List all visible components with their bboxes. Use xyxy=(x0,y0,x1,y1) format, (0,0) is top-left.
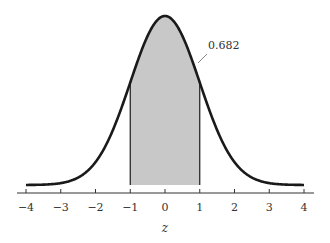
x-tick-label: 0 xyxy=(162,201,169,214)
chart-canvas: −4−3−2−101234 0.682 z xyxy=(0,0,330,243)
x-tick-label: −1 xyxy=(122,201,138,214)
annotation-leader-line xyxy=(198,54,207,63)
x-tick-label: 3 xyxy=(266,201,273,214)
x-tick-label: 1 xyxy=(196,201,203,214)
x-tick-label: 4 xyxy=(301,201,308,214)
normal-distribution-chart: −4−3−2−101234 0.682 z xyxy=(0,0,330,243)
x-tick-label: −2 xyxy=(87,201,103,214)
shaded-area xyxy=(130,16,200,185)
x-axis-title: z xyxy=(161,221,169,235)
x-tick-label: −3 xyxy=(53,201,69,214)
area-annotation: 0.682 xyxy=(208,39,240,52)
x-tick-label: 2 xyxy=(231,201,238,214)
x-tick-label: −4 xyxy=(18,201,34,214)
